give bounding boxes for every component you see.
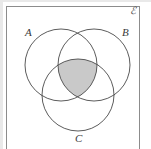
set-label-b: B: [122, 27, 129, 38]
universal-set-label: ℰ: [130, 6, 136, 16]
venn-diagram-figure: A B C ℰ: [0, 0, 151, 149]
set-label-a: A: [25, 27, 32, 38]
venn-diagram-canvas: [0, 0, 151, 149]
set-label-c: C: [75, 133, 82, 144]
